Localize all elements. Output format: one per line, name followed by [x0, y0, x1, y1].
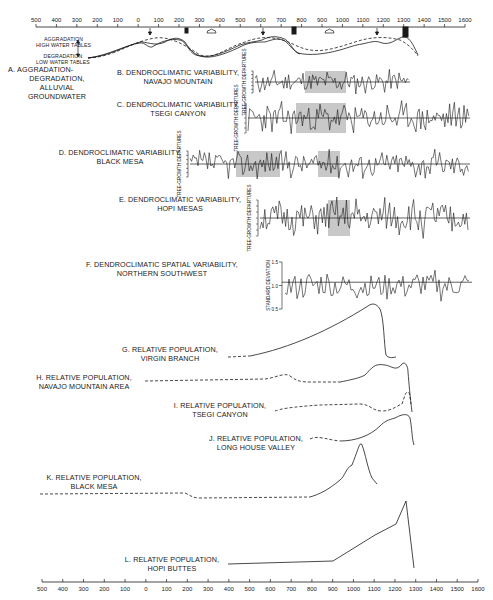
svg-text:100: 100: [120, 586, 131, 592]
panel-l-title: L. RELATIVE POPULATION, HOPI BUTTES: [112, 555, 232, 573]
panel-c-title: C. DENDROCLIMATIC VARIABILITY, TSEGI CAN…: [108, 100, 248, 118]
svg-text:1300: 1300: [409, 586, 423, 592]
svg-text:600: 600: [265, 586, 276, 592]
chart-tsegi-canyon: TREE-GROWTH DEPARTURES: [234, 85, 470, 152]
panel-i-title: I. RELATIVE POPULATION, TSEGI CANYON: [160, 401, 280, 419]
svg-text:STANDARD DEVIATION: STANDARD DEVIATION: [266, 260, 271, 311]
svg-text:500: 500: [37, 586, 48, 592]
panel-a-title-cont: DEGRADATION, ALLUVIAL GROUNDWATER: [22, 74, 92, 101]
svg-text:900: 900: [328, 586, 339, 592]
svg-text:1.0: 1.0: [272, 284, 279, 289]
svg-text:1000: 1000: [347, 586, 361, 592]
panel-f-title: F. DENDROCLIMATIC SPATIAL VARIABILITY, N…: [72, 260, 252, 278]
svg-text:400: 400: [224, 586, 235, 592]
svg-text:400: 400: [215, 17, 226, 23]
panel-g-title: G. RELATIVE POPULATION, VIRGIN BRANCH: [110, 345, 230, 363]
svg-text:1400: 1400: [430, 586, 444, 592]
svg-text:1200: 1200: [388, 586, 402, 592]
svg-text:600: 600: [256, 17, 267, 23]
top-axis-labels: 5004003002001000100200300400500600700800…: [31, 17, 472, 23]
panel-d-title: D. DENDROCLIMATIC VARIABILITY, BLACK MES…: [50, 148, 190, 166]
svg-text:1300: 1300: [397, 17, 411, 23]
panel-j-title: J. RELATIVE POPULATION, LONG HOUSE VALLE…: [196, 434, 316, 452]
panel-e-title: E. DENDROCLIMATIC VARIABILITY, HOPI MESA…: [110, 195, 250, 213]
svg-text:1.5: 1.5: [272, 260, 279, 265]
svg-text:1100: 1100: [368, 586, 382, 592]
cloud-icon: [207, 29, 334, 33]
svg-text:800: 800: [297, 17, 308, 23]
svg-text:200: 200: [182, 586, 193, 592]
chart-spatial-variability: 1.51.00.5STANDARD DEVIATION: [266, 260, 472, 312]
panel-a-title: A. AGGRADATION-: [8, 65, 73, 74]
svg-text:1600: 1600: [471, 586, 485, 592]
svg-text:700: 700: [286, 586, 297, 592]
svg-text:500: 500: [245, 586, 256, 592]
svg-text:100: 100: [162, 586, 173, 592]
chart-hopi-mesas: TREE-GROWTH DEPARTURES: [247, 185, 470, 252]
svg-text:1500: 1500: [438, 17, 452, 23]
svg-text:900: 900: [317, 17, 328, 23]
svg-text:1500: 1500: [451, 586, 465, 592]
svg-text:400: 400: [51, 17, 62, 23]
svg-text:1100: 1100: [356, 17, 370, 23]
svg-text:300: 300: [203, 586, 214, 592]
bottom-axis-labels: 5004003002001000100200300400500600700800…: [37, 586, 485, 592]
svg-text:TREE-GROWTH DEPARTURES: TREE-GROWTH DEPARTURES: [234, 85, 239, 152]
svg-text:300: 300: [79, 586, 90, 592]
svg-text:0.5: 0.5: [272, 307, 279, 312]
svg-text:100: 100: [154, 17, 165, 23]
svg-text:200: 200: [174, 17, 185, 23]
svg-text:500: 500: [235, 17, 246, 23]
svg-text:0: 0: [144, 586, 148, 592]
svg-text:1600: 1600: [458, 17, 472, 23]
svg-text:0: 0: [136, 17, 140, 23]
svg-text:700: 700: [276, 17, 287, 23]
svg-text:800: 800: [307, 586, 318, 592]
svg-text:400: 400: [58, 586, 69, 592]
svg-text:1200: 1200: [377, 17, 391, 23]
svg-text:200: 200: [92, 17, 103, 23]
chart-black-mesa: TREE-GROWTH DEPARTURES: [177, 131, 470, 198]
top-time-axis: [36, 24, 465, 27]
degradation-label: DEGRADATIONLOW WATER TABLES: [36, 53, 90, 65]
aggradation-label: AGGRADATIONHIGH WATER TABLES: [36, 36, 91, 48]
axis-event-markers: [149, 27, 409, 37]
aggradation-curves: [88, 37, 418, 58]
svg-text:500: 500: [31, 17, 42, 23]
svg-text:200: 200: [99, 586, 110, 592]
svg-text:300: 300: [194, 17, 205, 23]
panel-b-title: B. DENDROCLIMATIC VARIABILITY, NAVAJO MO…: [108, 68, 248, 86]
svg-text:300: 300: [72, 17, 83, 23]
panel-h-title: H. RELATIVE POPULATION, NAVAJO MOUNTAIN …: [24, 373, 144, 391]
panel-k-title: K. RELATIVE POPULATION, BLACK MESA: [34, 473, 154, 491]
bottom-time-axis: [42, 579, 478, 582]
svg-text:100: 100: [113, 17, 124, 23]
svg-text:1400: 1400: [417, 17, 431, 23]
svg-text:1000: 1000: [336, 17, 350, 23]
